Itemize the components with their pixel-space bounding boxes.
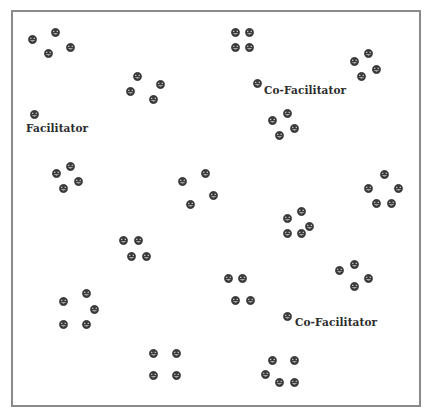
role-label: Co-Facilitator — [264, 85, 346, 96]
participant-smiley-icon — [238, 274, 247, 283]
role-label: Co-Facilitator — [295, 317, 377, 328]
participant-smiley-icon — [394, 184, 403, 193]
participant-smiley-icon — [246, 296, 255, 305]
participant-smiley-icon — [372, 199, 381, 208]
participant-smiley-icon — [66, 43, 75, 52]
participant-smiley-icon — [172, 371, 181, 380]
participant-smiley-icon — [350, 260, 359, 269]
participant-smiley-icon — [224, 274, 233, 283]
participant-smiley-icon — [290, 378, 299, 387]
participant-smiley-icon — [126, 87, 135, 96]
participant-smiley-icon — [290, 356, 299, 365]
facilitator-smiley-icon — [30, 110, 39, 119]
participant-smiley-icon — [51, 28, 60, 37]
participant-smiley-icon — [380, 170, 389, 179]
participant-smiley-icon — [127, 252, 136, 261]
participant-smiley-icon — [335, 266, 344, 275]
participant-smiley-icon — [156, 80, 165, 89]
role-label: Facilitator — [26, 123, 88, 134]
participant-smiley-icon — [305, 222, 314, 231]
participant-smiley-icon — [59, 297, 68, 306]
participant-smiley-icon — [82, 289, 91, 298]
facilitator-smiley-icon — [283, 312, 292, 321]
participant-smiley-icon — [364, 274, 373, 283]
participant-smiley-icon — [350, 282, 359, 291]
participant-smiley-icon — [283, 229, 292, 238]
participant-smiley-icon — [283, 109, 292, 118]
participant-smiley-icon — [178, 177, 187, 186]
participant-smiley-icon — [201, 169, 210, 178]
participant-smiley-icon — [44, 49, 53, 58]
participant-smiley-icon — [297, 229, 306, 238]
facilitator-smiley-icon — [253, 79, 262, 88]
participant-smiley-icon — [149, 95, 158, 104]
participant-smiley-icon — [209, 191, 218, 200]
participant-smiley-icon — [90, 305, 99, 314]
participant-smiley-icon — [387, 199, 396, 208]
participant-smiley-icon — [119, 236, 128, 245]
participant-smiley-icon — [283, 214, 292, 223]
participant-smiley-icon — [245, 28, 254, 37]
participant-smiley-icon — [74, 177, 83, 186]
participant-smiley-icon — [350, 57, 359, 66]
participant-smiley-icon — [149, 371, 158, 380]
participant-smiley-icon — [245, 43, 254, 52]
participant-smiley-icon — [82, 320, 91, 329]
participant-smiley-icon — [142, 252, 151, 261]
participant-smiley-icon — [357, 72, 366, 81]
participant-smiley-icon — [133, 72, 142, 81]
participant-smiley-icon — [268, 356, 277, 365]
participant-smiley-icon — [364, 49, 373, 58]
participant-smiley-icon — [275, 378, 284, 387]
participant-smiley-icon — [261, 370, 270, 379]
participant-smiley-icon — [364, 184, 373, 193]
participant-smiley-icon — [172, 349, 181, 358]
participant-smiley-icon — [290, 124, 299, 133]
participant-smiley-icon — [275, 131, 284, 140]
participant-smiley-icon — [59, 184, 68, 193]
participant-smiley-icon — [59, 320, 68, 329]
participant-smiley-icon — [149, 349, 158, 358]
participant-smiley-icon — [66, 162, 75, 171]
participant-smiley-icon — [372, 65, 381, 74]
participant-smiley-icon — [231, 296, 240, 305]
participant-smiley-icon — [186, 200, 195, 209]
participant-smiley-icon — [231, 28, 240, 37]
participant-smiley-icon — [28, 35, 37, 44]
participant-smiley-icon — [231, 43, 240, 52]
participant-smiley-icon — [268, 116, 277, 125]
participant-smiley-icon — [52, 169, 61, 178]
participant-smiley-icon — [134, 236, 143, 245]
participant-smiley-icon — [297, 207, 306, 216]
seating-diagram: Facilitator Co-Facilitator Co-Facilitato… — [0, 0, 428, 415]
